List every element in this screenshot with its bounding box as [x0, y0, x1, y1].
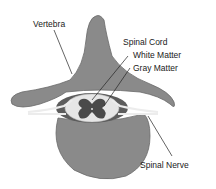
- label-white-matter: White Matter: [133, 50, 181, 60]
- label-spinal-cord: Spinal Cord: [123, 37, 167, 47]
- label-spinal-nerve: Spinal Nerve: [140, 160, 189, 170]
- vertebral-body: [56, 114, 150, 179]
- label-vertebra: Vertebra: [33, 19, 65, 29]
- central-canal: [91, 108, 93, 110]
- leader-vertebra: [54, 30, 72, 74]
- label-gray-matter: Gray Matter: [133, 63, 178, 73]
- leader-spinal-nerve: [148, 116, 172, 156]
